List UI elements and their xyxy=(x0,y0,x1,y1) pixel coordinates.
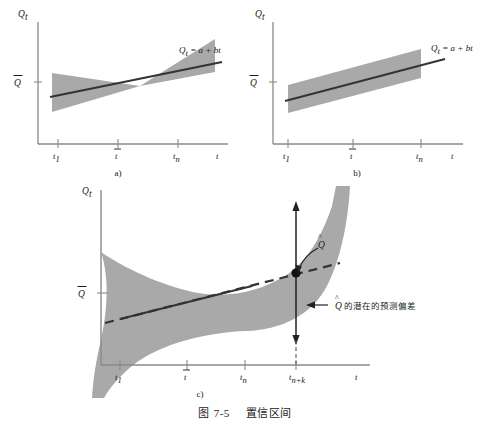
x-tick-label-tn-c: tn xyxy=(240,372,247,385)
panel-letter-c: c) xyxy=(197,389,204,399)
caption-title: 置信区间 xyxy=(246,407,292,420)
prediction-band-c xyxy=(92,186,350,398)
caption-number: 7-5 xyxy=(214,407,230,419)
x-tick-label-t1-b: t1 xyxy=(283,151,290,164)
annotation-qhat-caret-c: ^ xyxy=(335,294,339,303)
annotation-text-c: 的潜在的预测偏差 xyxy=(344,301,416,311)
qhat-caret-c: ^ xyxy=(318,233,322,242)
y-mean-label-a: Q xyxy=(14,78,21,88)
panel-c-prediction-band-with-forecast: Qt Q t1 t tn tn+k t Q ^ Q ^ 的潜在的预测偏差 c) xyxy=(60,180,460,405)
x-tick-label-tn-b: tn xyxy=(416,151,423,164)
x-tick-label-tbar-b: t xyxy=(350,151,353,161)
x-tick-label-tn-a: tn xyxy=(173,151,180,164)
prediction-deviation-annotation-c: Q ^ 的潜在的预测偏差 xyxy=(335,294,416,311)
x-tick-label-tnk-c: tn+k xyxy=(289,372,305,385)
x-axis-label-c: t xyxy=(355,372,358,382)
y-axis-label-b: Qt xyxy=(255,9,265,22)
y-mean-label-c: Q xyxy=(78,289,85,299)
caption-prefix: 图 xyxy=(198,407,210,420)
figure-caption: 图 7-5 置信区间 xyxy=(0,404,490,420)
x-tick-label-t1-c: t1 xyxy=(115,372,122,385)
panel-b-constant-width-confidence-band: Qt Q t1 t tn t Qt = a + bt b) xyxy=(245,0,490,180)
errorbar-arrowhead-up-c xyxy=(292,201,299,211)
panel-letter-b: b) xyxy=(353,168,361,178)
x-tick-label-tbar-c: t xyxy=(184,372,187,382)
figure-7-5: Qt Q t1 t tn t Qt = a + bt a) xyxy=(0,0,490,429)
x-axis-label-a: t xyxy=(216,151,219,161)
y-mean-label-b: Q xyxy=(250,78,257,88)
y-axis-label-a: Qt xyxy=(18,9,28,22)
x-tick-label-tbar-a: t xyxy=(115,151,118,161)
trend-formula-b: Qt = a + bt xyxy=(431,43,473,56)
y-axis-label-c: Qt xyxy=(82,186,92,199)
panel-a-narrowing-confidence-band: Qt Q t1 t tn t Qt = a + bt a) xyxy=(0,0,245,180)
confidence-band-b xyxy=(288,49,421,113)
x-axis-label-b: t xyxy=(451,151,454,161)
panel-letter-a: a) xyxy=(115,168,122,178)
x-tick-label-t1-a: t1 xyxy=(53,151,60,164)
